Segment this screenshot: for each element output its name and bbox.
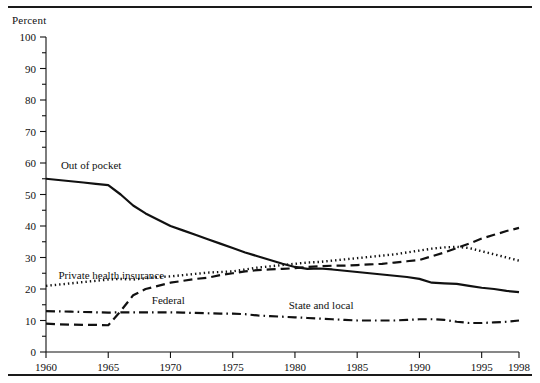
series-lines xyxy=(46,179,519,325)
y-tick-label: 80 xyxy=(25,94,37,106)
y-tick-label: 100 xyxy=(20,31,37,43)
chart-figure: Percent 0102030405060708090100 196019651… xyxy=(0,0,540,383)
series-labels: Out of pocketPrivate health insuranceFed… xyxy=(58,159,353,311)
y-tick-label: 70 xyxy=(25,126,37,138)
series-line xyxy=(46,311,519,323)
x-axis: 196019651970197519801985199019951998 xyxy=(35,352,531,373)
y-tick-label: 30 xyxy=(25,252,37,264)
x-tick-label: 1970 xyxy=(159,361,182,373)
y-tick-label: 0 xyxy=(31,346,37,358)
series-label: State and local xyxy=(289,299,354,311)
x-tick-label: 1990 xyxy=(408,361,431,373)
x-tick-label: 1985 xyxy=(346,361,369,373)
series-label: Out of pocket xyxy=(61,159,121,171)
series-label: Federal xyxy=(152,294,185,306)
y-tick-label: 60 xyxy=(25,157,37,169)
series-label: Private health insurance xyxy=(58,269,164,281)
x-tick-label: 1965 xyxy=(97,361,120,373)
y-tick-label: 40 xyxy=(25,220,37,232)
line-chart-plot: 0102030405060708090100 19601965197019751… xyxy=(0,0,540,383)
x-tick-label: 1995 xyxy=(471,361,494,373)
y-axis: 0102030405060708090100 xyxy=(20,31,47,358)
y-tick-label: 50 xyxy=(25,189,37,201)
x-tick-label: 1980 xyxy=(284,361,307,373)
x-tick-label: 1960 xyxy=(35,361,58,373)
y-tick-label: 90 xyxy=(25,63,37,75)
x-tick-label: 1998 xyxy=(508,361,531,373)
y-tick-label: 20 xyxy=(25,283,37,295)
y-tick-label: 10 xyxy=(25,315,37,327)
x-tick-label: 1975 xyxy=(222,361,245,373)
